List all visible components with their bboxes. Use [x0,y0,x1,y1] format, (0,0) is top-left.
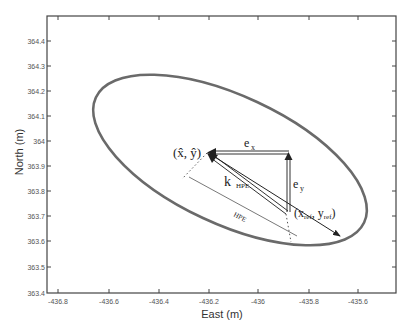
y-tick-labels: 364.4 364.3 364.2 364.1 364 363.9 363.8 … [27,38,45,297]
x-tick-label: -435.8 [299,298,319,305]
x-tick-label: -436.4 [149,298,169,305]
ex-main: e [244,136,249,150]
x-tick-label: -435.6 [348,298,368,305]
k-main: k [224,174,231,189]
ey-main: e [293,177,298,191]
ey-sub: y [300,184,304,193]
y-tick-label: 363.7 [27,213,45,220]
estimate-label: (x̂, ŷ) [173,145,201,160]
y-tick-label: 363.9 [27,163,45,170]
y-tick-label: 364.4 [27,38,45,45]
x-tick-label: -436 [251,298,265,305]
error-ellipse [69,39,391,280]
y-tick-label: 363.6 [27,238,45,245]
y-tick-label: 364.3 [27,63,45,70]
ey-label: e y [293,177,304,193]
y-tick-label: 363.4 [27,290,45,297]
y-tick-label: 364 [33,138,45,145]
x-tick-label: -436.2 [199,298,219,305]
y-axis-title: North (m) [13,129,25,175]
x-tick-labels: -436.8 -436.6 -436.4 -436.2 -436 -435.8 … [48,298,368,305]
y-tick-label: 364.2 [27,88,45,95]
y-tick-label: 364.1 [27,113,45,120]
ex-label: e x [244,136,255,152]
y-tick-label: 363.8 [27,188,45,195]
reference-label: (xref, yref) [294,206,336,221]
x-axis-title: East (m) [201,308,243,320]
ex-sub: x [251,143,255,152]
x-tick-label: -436.6 [99,298,119,305]
hpe-label: HPE [232,211,247,224]
reference-label-text: (xref, yref) [294,206,336,221]
y-tick-label: 363.5 [27,264,45,271]
figure: 364.4 364.3 364.2 364.1 364 363.9 363.8 … [0,0,410,327]
k-sub: HPE [236,182,249,190]
x-tick-label: -436.8 [48,298,68,305]
